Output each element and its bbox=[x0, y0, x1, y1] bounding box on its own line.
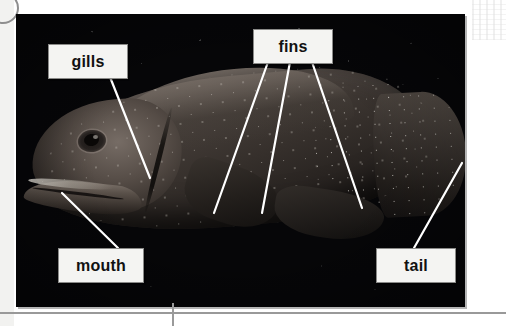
callout-label-gills[interactable]: gills bbox=[48, 44, 128, 79]
callout-text-fins: fins bbox=[278, 38, 307, 56]
page-bottom-tick bbox=[172, 303, 174, 326]
page-canvas: gills fins mouth tail bbox=[0, 0, 506, 326]
callout-label-fins[interactable]: fins bbox=[253, 29, 333, 64]
page-bottom-rule bbox=[0, 312, 506, 314]
page-edge-speckle bbox=[472, 0, 506, 40]
fish-eye-glint bbox=[93, 135, 98, 139]
callout-text-gills: gills bbox=[71, 53, 104, 71]
page-margin-strip bbox=[0, 0, 14, 326]
callout-text-mouth: mouth bbox=[76, 257, 126, 275]
callout-label-mouth[interactable]: mouth bbox=[58, 248, 144, 283]
callout-label-tail[interactable]: tail bbox=[376, 248, 456, 283]
callout-text-tail: tail bbox=[404, 257, 428, 275]
